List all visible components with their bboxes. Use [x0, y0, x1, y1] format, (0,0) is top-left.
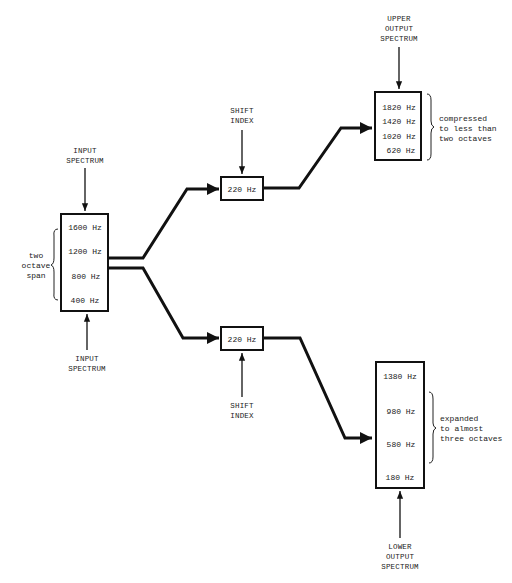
upper-freq-1820: 1820 Hz: [382, 103, 416, 112]
input-freq-1600: 1600 Hz: [68, 223, 102, 232]
lower-output-label: LOWER OUTPUT SPECTRUM: [381, 543, 419, 571]
svg-text:INPUT: INPUT: [73, 147, 97, 155]
svg-text:two octaves: two octaves: [439, 134, 492, 143]
lower-output-annotation: expanded to almost three octaves: [440, 414, 503, 443]
input-freq-800: 800 Hz: [72, 272, 101, 281]
upper-output-label: UPPER OUTPUT SPECTRUM: [380, 15, 418, 43]
svg-text:expanded: expanded: [440, 414, 479, 423]
lower-freq-180: 180 Hz: [386, 473, 415, 482]
lower-shift-label: SHIFT INDEX: [230, 402, 254, 420]
svg-text:SPECTRUM: SPECTRUM: [381, 563, 419, 571]
upper-freq-1420: 1420 Hz: [382, 117, 416, 126]
svg-text:INDEX: INDEX: [230, 412, 254, 420]
svg-text:INPUT: INPUT: [75, 355, 99, 363]
svg-text:two: two: [29, 251, 44, 260]
input-top-label: INPUT SPECTRUM: [66, 147, 104, 165]
upper-output-annotation: compressed to less than two octaves: [439, 114, 497, 143]
upper-output-brace-icon: [427, 94, 434, 160]
wire-lower-shift-to-lower-output: [263, 338, 372, 438]
lower-freq-1380: 1380 Hz: [383, 372, 417, 381]
svg-text:SHIFT: SHIFT: [230, 107, 254, 115]
lower-output-brace-icon: [429, 392, 436, 463]
lower-freq-980: 980 Hz: [387, 407, 416, 416]
input-annotation: two octave span: [22, 251, 51, 280]
svg-text:SPECTRUM: SPECTRUM: [380, 35, 418, 43]
svg-text:LOWER: LOWER: [388, 543, 412, 551]
upper-shift-value: 220 Hz: [228, 185, 257, 194]
input-freq-400: 400 Hz: [71, 296, 100, 305]
input-brace-icon: [51, 229, 58, 300]
lower-freq-580: 580 Hz: [387, 440, 416, 449]
wire-input-to-upper-shift: [108, 189, 219, 258]
svg-text:SPECTRUM: SPECTRUM: [66, 157, 104, 165]
svg-text:compressed: compressed: [439, 114, 487, 123]
svg-text:OUTPUT: OUTPUT: [385, 25, 414, 33]
svg-text:to almost: to almost: [440, 424, 483, 433]
upper-freq-620: 620 Hz: [387, 146, 416, 155]
input-bottom-label: INPUT SPECTRUM: [68, 355, 106, 373]
svg-text:SHIFT: SHIFT: [230, 402, 254, 410]
svg-text:OUTPUT: OUTPUT: [386, 553, 415, 561]
svg-text:SPECTRUM: SPECTRUM: [68, 365, 106, 373]
svg-text:three octaves: three octaves: [440, 434, 503, 443]
lower-shift-value: 220 Hz: [228, 335, 257, 344]
wire-input-to-lower-shift: [108, 268, 219, 338]
upper-freq-1020: 1020 Hz: [382, 132, 416, 141]
upper-shift-label: SHIFT INDEX: [230, 107, 254, 125]
svg-text:to less than: to less than: [439, 124, 497, 133]
input-freq-1200: 1200 Hz: [68, 247, 102, 256]
svg-text:span: span: [26, 271, 45, 280]
wire-upper-shift-to-upper-output: [263, 128, 372, 188]
svg-text:UPPER: UPPER: [387, 15, 411, 23]
frequency-shift-diagram: INPUT SPECTRUM 1600 Hz 1200 Hz 800 Hz 40…: [0, 0, 512, 583]
svg-text:octave: octave: [22, 261, 51, 270]
svg-text:INDEX: INDEX: [230, 117, 254, 125]
